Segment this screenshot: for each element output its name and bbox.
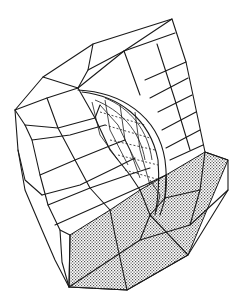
shaded-faces — [69, 152, 228, 290]
mesh-drawing — [0, 0, 238, 307]
fem-mesh-figure — [0, 0, 238, 307]
